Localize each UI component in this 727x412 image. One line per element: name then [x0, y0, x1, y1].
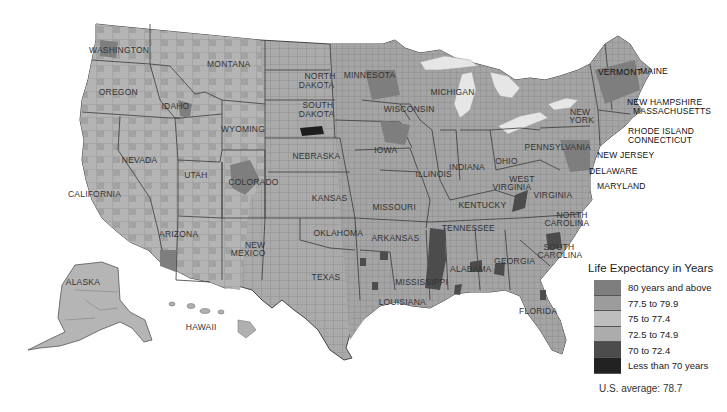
state-label: LOUISIANA: [379, 298, 426, 307]
legend-swatch: [594, 280, 621, 296]
state-label: HAWAII: [186, 323, 217, 332]
legend-item: Less than 70 years: [588, 358, 727, 374]
state-label: ALASKA: [66, 278, 100, 287]
hawaii-shape: [169, 302, 256, 338]
state-label: GEORGIA: [494, 257, 535, 266]
legend-item: 80 years and above: [588, 280, 727, 296]
legend-swatch: [594, 342, 621, 358]
state-label: MEXICO: [231, 249, 266, 258]
legend-item: 77.5 to 79.9: [588, 296, 727, 312]
state-label: FLORIDA: [519, 307, 557, 316]
state-label: CAROLINA: [537, 251, 582, 260]
legend-swatch: [594, 311, 621, 327]
state-label: UTAH: [184, 171, 207, 180]
state-label: PENNSYLVANIA: [525, 143, 591, 152]
legend-label: Less than 70 years: [628, 360, 708, 371]
legend-item: 75 to 77.4: [588, 311, 727, 327]
state-label: MONTANA: [207, 60, 250, 69]
state-label: IOWA: [374, 146, 397, 155]
state-label: WISCONSIN: [384, 105, 435, 114]
legend-swatch: [594, 296, 621, 312]
state-label: DAKOTA: [299, 110, 335, 119]
state-callout-label: MAINE: [640, 67, 668, 76]
state-label: MICHIGAN: [430, 88, 474, 97]
state-callout-label: MARYLAND: [597, 182, 646, 191]
state-label: INDIANA: [449, 163, 485, 172]
state-label: ARKANSAS: [371, 234, 419, 243]
state-label: VIRGINIA: [492, 183, 531, 192]
state-label: MINNESOTA: [344, 71, 396, 80]
legend-label: 75 to 77.4: [628, 313, 670, 324]
state-callout-label: NEW JERSEY: [597, 151, 654, 160]
state-callout-label: CONNECTICUT: [628, 136, 692, 145]
state-label: CALIFORNIA: [68, 190, 121, 199]
state-callout-label: VERMONT: [598, 68, 642, 77]
legend-rows: 80 years and above77.5 to 79.975 to 77.4…: [588, 280, 727, 374]
state-label: TENNESSEE: [442, 224, 495, 233]
state-label: ALABAMA: [450, 265, 492, 274]
state-label: MISSISSIPPI: [395, 278, 448, 287]
state-label: CAROLINA: [544, 219, 589, 228]
state-label: WASHINGTON: [89, 46, 149, 55]
alaska-shape: [28, 262, 152, 350]
legend-label: 77.5 to 79.9: [628, 298, 678, 309]
state-label: WYOMING: [221, 125, 265, 134]
state-label: ARIZONA: [159, 230, 198, 239]
state-label: IDAHO: [162, 102, 190, 111]
state-label: OREGON: [99, 88, 138, 97]
legend-swatch: [594, 327, 621, 343]
legend-item: 72.5 to 74.9: [588, 327, 727, 343]
state-label: NEBRASKA: [292, 152, 340, 161]
legend: Life Expectancy in Years 80 years and ab…: [588, 262, 727, 374]
legend-label: 80 years and above: [628, 282, 711, 293]
state-label: NEVADA: [122, 156, 158, 165]
legend-title: Life Expectancy in Years: [588, 262, 727, 274]
state-label: KANSAS: [312, 194, 348, 203]
state-label: ILLINOIS: [415, 170, 452, 179]
state-label: TEXAS: [312, 273, 341, 282]
us-average: U.S. average: 78.7: [599, 383, 682, 394]
state-label: MISSOURI: [372, 203, 416, 212]
state-label: VIRGINIA: [533, 191, 572, 200]
state-label: OKLAHOMA: [313, 229, 363, 238]
state-callout-label: MASSACHUSETTS: [633, 107, 711, 116]
state-label: DAKOTA: [299, 81, 335, 90]
legend-label: 72.5 to 74.9: [628, 329, 678, 340]
legend-item: 70 to 72.4: [588, 342, 727, 358]
state-label: OHIO: [495, 157, 518, 166]
state-callout-label: DELAWARE: [589, 167, 638, 176]
state-label: KENTUCKY: [458, 201, 506, 210]
legend-label: 70 to 72.4: [628, 345, 670, 356]
state-label: YORK: [569, 116, 594, 125]
state-label: COLORADO: [228, 178, 278, 187]
legend-swatch: [594, 358, 621, 374]
